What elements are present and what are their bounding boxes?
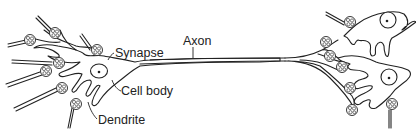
right-neurons [321,12,416,128]
svg-text:Synapse: Synapse [115,46,164,60]
label-axon: Axon [183,34,212,58]
neuron-diagram: Synapse Axon Cell body Dendrite [0,0,416,137]
left-neuron [6,16,280,128]
axon-terminal-branches [285,40,354,112]
svg-text:Axon: Axon [183,34,212,48]
label-synapse: Synapse [108,46,164,60]
label-cell-body: Cell body [112,80,174,98]
label-dendrite: Dendrite [88,102,145,127]
svg-text:Dendrite: Dendrite [98,113,145,127]
svg-text:Cell body: Cell body [121,84,174,98]
